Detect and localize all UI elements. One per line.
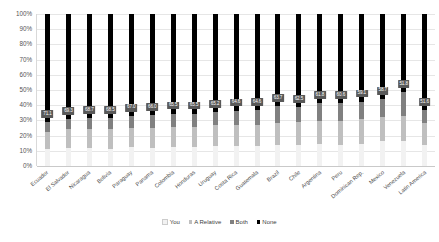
- bar-segment-a-relative[interactable]: [422, 123, 427, 145]
- bar-segment-you[interactable]: [66, 148, 71, 166]
- stacked-bar[interactable]: [338, 14, 343, 166]
- stacked-bar[interactable]: [45, 14, 50, 166]
- bar-segment-both[interactable]: [45, 122, 50, 132]
- bar-segment-both[interactable]: [359, 102, 364, 120]
- bar-segment-a-relative[interactable]: [401, 116, 406, 141]
- bar-segment-you[interactable]: [234, 146, 239, 166]
- bar-segment-you[interactable]: [171, 147, 176, 166]
- bar-segment-none[interactable]: [275, 14, 280, 106]
- bar-segment-both[interactable]: [401, 92, 406, 115]
- stacked-bar[interactable]: [171, 14, 176, 166]
- bar-segment-none[interactable]: [359, 14, 364, 102]
- bar-segment-none[interactable]: [87, 14, 92, 118]
- bar-column[interactable]: 51.6: [414, 14, 435, 166]
- bar-segment-none[interactable]: [66, 14, 71, 119]
- bar-column[interactable]: 68.7: [79, 14, 100, 166]
- bar-segment-a-relative[interactable]: [129, 128, 134, 148]
- stacked-bar[interactable]: [255, 14, 260, 166]
- bar-segment-both[interactable]: [234, 111, 239, 125]
- bar-column[interactable]: 69.3: [58, 14, 79, 166]
- bar-segment-you[interactable]: [296, 145, 301, 166]
- stacked-bar[interactable]: [87, 14, 92, 166]
- bar-segment-none[interactable]: [150, 14, 155, 115]
- bar-segment-none[interactable]: [129, 14, 134, 116]
- bar-segment-you[interactable]: [192, 147, 197, 166]
- bar-segment-both[interactable]: [150, 115, 155, 128]
- bar-segment-none[interactable]: [317, 14, 322, 103]
- bar-column[interactable]: 64.6: [226, 14, 247, 166]
- bar-segment-both[interactable]: [87, 118, 92, 129]
- bar-segment-a-relative[interactable]: [380, 117, 385, 142]
- bar-segment-both[interactable]: [338, 103, 343, 121]
- bar-segment-none[interactable]: [234, 14, 239, 111]
- bar-segment-both[interactable]: [192, 114, 197, 127]
- bar-segment-a-relative[interactable]: [192, 127, 197, 147]
- bar-segment-you[interactable]: [359, 144, 364, 166]
- bar-segment-a-relative[interactable]: [234, 125, 239, 146]
- bar-column[interactable]: 66.0: [142, 14, 163, 166]
- bar-column[interactable]: 67.0: [121, 14, 142, 166]
- bar-segment-both[interactable]: [422, 110, 427, 123]
- bar-segment-both[interactable]: [380, 99, 385, 117]
- bar-segment-none[interactable]: [108, 14, 113, 118]
- stacked-bar[interactable]: [317, 14, 322, 166]
- bar-segment-none[interactable]: [422, 14, 427, 110]
- stacked-bar[interactable]: [108, 14, 113, 166]
- bar-segment-both[interactable]: [129, 116, 134, 128]
- bar-column[interactable]: 64.6: [247, 14, 268, 166]
- bar-segment-a-relative[interactable]: [150, 128, 155, 148]
- bar-segment-you[interactable]: [401, 141, 406, 166]
- bar-segment-none[interactable]: [171, 14, 176, 114]
- bar-segment-none[interactable]: [192, 14, 197, 114]
- bar-column[interactable]: 65.5: [163, 14, 184, 166]
- bar-segment-you[interactable]: [45, 149, 50, 166]
- legend-item-a-relative[interactable]: A Relative: [189, 219, 221, 225]
- bar-segment-both[interactable]: [171, 114, 176, 127]
- bar-segment-a-relative[interactable]: [275, 123, 280, 145]
- stacked-bar[interactable]: [275, 14, 280, 166]
- bar-segment-a-relative[interactable]: [317, 121, 322, 144]
- bar-segment-none[interactable]: [338, 14, 343, 103]
- bar-segment-none[interactable]: [296, 14, 301, 107]
- bar-column[interactable]: 68.5: [100, 14, 121, 166]
- stacked-bar[interactable]: [150, 14, 155, 166]
- bar-segment-you[interactable]: [108, 149, 113, 166]
- bar-column[interactable]: 61.8: [309, 14, 330, 166]
- bar-segment-you[interactable]: [87, 148, 92, 166]
- bar-segment-you[interactable]: [255, 146, 260, 166]
- bar-column[interactable]: 51.8: [393, 14, 414, 166]
- stacked-bar[interactable]: [401, 14, 406, 166]
- bar-column[interactable]: 59.1: [351, 14, 372, 166]
- bar-segment-a-relative[interactable]: [338, 121, 343, 145]
- bar-segment-you[interactable]: [380, 141, 385, 166]
- bar-column[interactable]: 71.1: [37, 14, 58, 166]
- bar-segment-a-relative[interactable]: [255, 125, 260, 146]
- bar-column[interactable]: 60.6: [330, 14, 351, 166]
- bar-segment-both[interactable]: [66, 119, 71, 129]
- bar-column[interactable]: 63.7: [267, 14, 288, 166]
- bar-segment-you[interactable]: [338, 145, 343, 166]
- stacked-bar[interactable]: [192, 14, 197, 166]
- stacked-bar[interactable]: [66, 14, 71, 166]
- bar-segment-both[interactable]: [317, 103, 322, 121]
- legend-item-none[interactable]: None: [257, 219, 277, 225]
- bar-segment-you[interactable]: [317, 144, 322, 166]
- bar-segment-you[interactable]: [275, 145, 280, 166]
- bar-column[interactable]: 65.5: [184, 14, 205, 166]
- bar-segment-both[interactable]: [213, 112, 218, 125]
- bar-segment-a-relative[interactable]: [171, 127, 176, 147]
- stacked-bar[interactable]: [296, 14, 301, 166]
- legend-item-both[interactable]: Both: [230, 219, 248, 225]
- bar-segment-a-relative[interactable]: [87, 129, 92, 147]
- stacked-bar[interactable]: [422, 14, 427, 166]
- bar-segment-a-relative[interactable]: [213, 125, 218, 146]
- bar-column[interactable]: 62.5: [288, 14, 309, 166]
- bar-segment-you[interactable]: [150, 148, 155, 166]
- bar-segment-you[interactable]: [129, 147, 134, 166]
- bar-segment-you[interactable]: [213, 146, 218, 166]
- bar-segment-none[interactable]: [213, 14, 218, 112]
- bar-segment-none[interactable]: [255, 14, 260, 110]
- legend-item-you[interactable]: You: [162, 219, 180, 225]
- bar-segment-a-relative[interactable]: [359, 119, 364, 143]
- bar-segment-both[interactable]: [108, 118, 113, 129]
